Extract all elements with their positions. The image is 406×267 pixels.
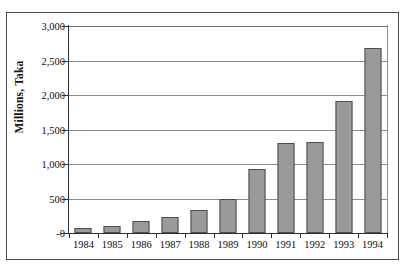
x-tick-mark	[387, 233, 388, 238]
bar[interactable]	[104, 226, 121, 233]
x-tick-mark	[98, 233, 99, 238]
x-tick-label: 1994	[353, 239, 393, 250]
bar[interactable]	[306, 142, 323, 233]
y-tick-label: 1,000	[21, 159, 65, 170]
y-tick-label: -0	[21, 228, 65, 239]
bar[interactable]	[133, 221, 150, 233]
x-axis-tick-labels: 1984198519861987198819891990199119921993…	[69, 233, 387, 261]
x-tick-mark	[185, 233, 186, 238]
y-tick-mark	[62, 130, 69, 131]
y-tick-mark	[62, 233, 69, 234]
x-tick-mark	[271, 233, 272, 238]
bar-slot	[185, 26, 214, 233]
x-tick-mark	[329, 233, 330, 238]
x-tick-mark	[156, 233, 157, 238]
x-tick-mark	[69, 233, 70, 238]
bar-slot	[156, 26, 185, 233]
bar-slot	[329, 26, 358, 233]
y-tick-mark	[62, 26, 69, 27]
x-tick-mark	[127, 233, 128, 238]
y-tick-mark	[62, 61, 69, 62]
bar-slot	[300, 26, 329, 233]
y-tick-mark	[62, 199, 69, 200]
clipped-caption-text	[0, 0, 406, 8]
bar[interactable]	[248, 169, 265, 233]
bar[interactable]	[335, 101, 352, 233]
x-tick-mark	[300, 233, 301, 238]
y-tick-label: 2,500	[21, 55, 65, 66]
y-tick-mark	[62, 164, 69, 165]
bars-layer	[69, 26, 387, 233]
bar-slot	[214, 26, 243, 233]
bar-slot	[271, 26, 300, 233]
bar-slot	[358, 26, 387, 233]
bar[interactable]	[277, 143, 294, 233]
bar-slot	[69, 26, 98, 233]
y-axis-tick-labels: -05001,0001,5002,0002,5003,000	[21, 13, 65, 261]
bar-slot	[242, 26, 271, 233]
x-tick-mark	[358, 233, 359, 238]
bar[interactable]	[364, 48, 381, 233]
bar[interactable]	[191, 210, 208, 233]
bar[interactable]	[219, 199, 236, 233]
bar-slot	[127, 26, 156, 233]
y-tick-label: 2,000	[21, 90, 65, 101]
bar-slot	[98, 26, 127, 233]
chart-frame: Millions, Taka -05001,0001,5002,0002,500…	[6, 12, 399, 260]
bar-chart: Millions, Taka -05001,0001,5002,0002,500…	[7, 13, 398, 259]
x-tick-mark	[214, 233, 215, 238]
x-tick-mark	[242, 233, 243, 238]
y-tick-label: 500	[21, 193, 65, 204]
y-tick-label: 3,000	[21, 21, 65, 32]
bar[interactable]	[162, 217, 179, 233]
plot-right-edge	[387, 25, 388, 234]
y-tick-label: 1,500	[21, 124, 65, 135]
y-tick-mark	[62, 95, 69, 96]
